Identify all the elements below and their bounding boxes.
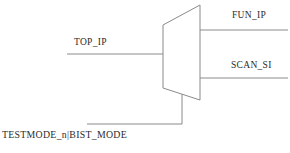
port-label-scan-si: SCAN_SI xyxy=(231,61,272,71)
port-label-select-control: TESTMODE_n|BIST_MODE xyxy=(2,130,127,140)
mux-trapezoid xyxy=(163,5,200,100)
port-label-top-ip: TOP_IP xyxy=(74,38,107,48)
wire-select-control xyxy=(87,94,182,124)
port-label-fun-ip: FUN_IP xyxy=(232,11,266,21)
diagram-canvas: FUN_IP SCAN_SI TOP_IP TESTMODE_n|BIST_MO… xyxy=(0,0,290,153)
